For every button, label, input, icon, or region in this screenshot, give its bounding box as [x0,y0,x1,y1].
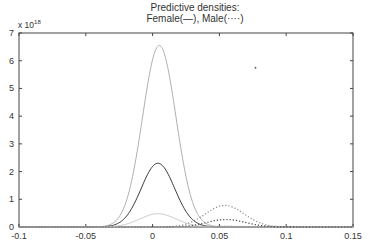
y-tick-label: 4 [9,111,14,121]
x-tick-label: 0.1 [280,231,293,241]
y-tick-label: 3 [9,139,14,149]
x-tick-label: -0.05 [76,231,97,241]
x-tick-label: 0.05 [211,231,229,241]
y-tick-label: 5 [9,83,14,93]
x-tick-label: -0.1 [11,231,27,241]
plot-frame [19,33,353,227]
annotation-point [254,67,256,69]
y-tick-label: 0 [9,222,14,232]
x-tick-label: 0.15 [344,231,362,241]
series-line [19,205,353,227]
y-tick-label: 1 [9,194,14,204]
y-tick-label: 7 [9,28,14,38]
y-tick-label: 6 [9,56,14,66]
series-line [19,214,353,227]
chart-plot: -0.1-0.0500.050.10.1501234567 [0,0,370,246]
x-tick-label: 0 [150,231,155,241]
series-line [19,45,353,227]
series-line [19,163,353,227]
y-tick-label: 2 [9,167,14,177]
